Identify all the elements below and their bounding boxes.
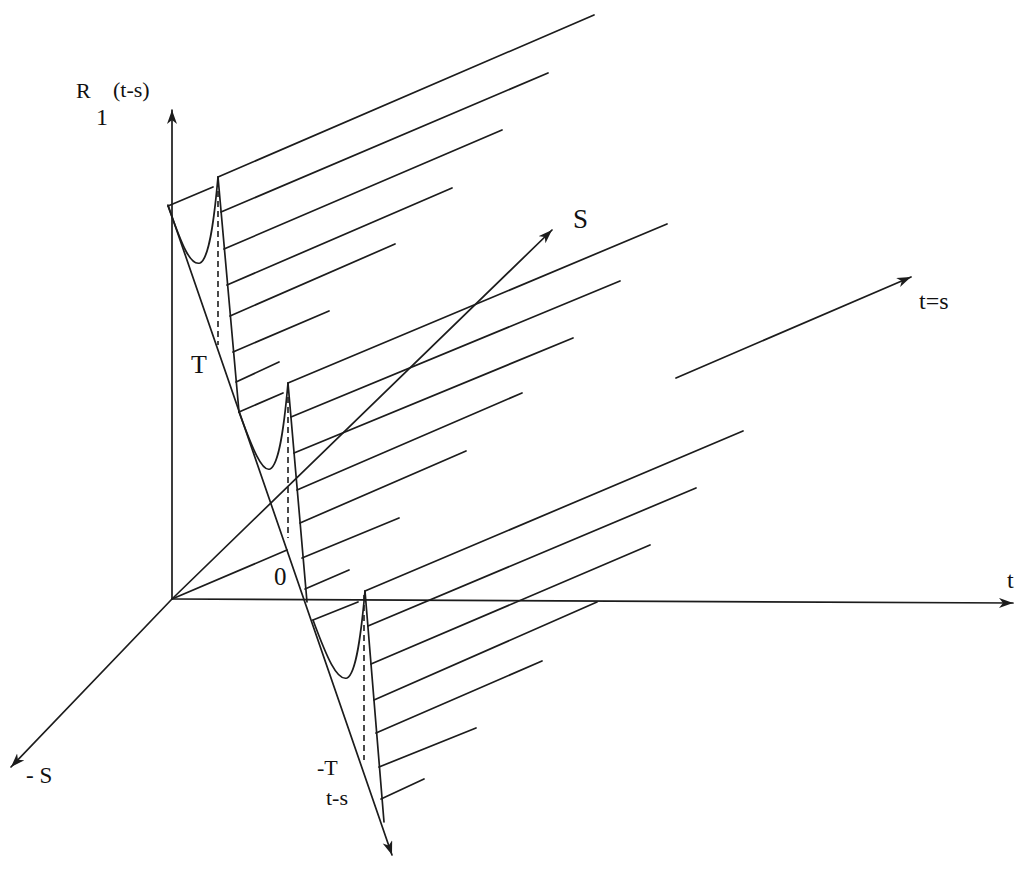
hatch-line bbox=[233, 311, 329, 352]
period-1 bbox=[168, 15, 594, 412]
hatch-line bbox=[239, 393, 283, 412]
hatch-line bbox=[302, 518, 399, 558]
s-axis bbox=[172, 230, 552, 599]
labels: R 1 (t-s) S t=s t - S t-s T 0 -T bbox=[26, 77, 1014, 810]
neg-s-axis-label: - S bbox=[26, 763, 52, 788]
covariance-curve bbox=[313, 591, 365, 678]
hatch-line bbox=[313, 602, 358, 620]
lag-t-minus-s-axis bbox=[168, 205, 392, 855]
diagonal-t-equals-s-far bbox=[676, 277, 911, 378]
curve-right-edge bbox=[288, 383, 307, 602]
t-axis-label: t bbox=[1007, 567, 1014, 593]
hatch-line bbox=[379, 728, 476, 767]
hatch-line bbox=[368, 488, 696, 626]
hatch-line bbox=[381, 779, 424, 799]
hatch-line bbox=[305, 570, 349, 589]
hatch-line bbox=[376, 661, 542, 733]
hatch-line bbox=[291, 281, 620, 417]
r-axis-label-subscript: 1 bbox=[96, 104, 108, 130]
r-axis-label-main: R bbox=[76, 78, 91, 103]
lag-axis-label: t-s bbox=[326, 785, 348, 810]
hatch-line bbox=[224, 130, 502, 249]
axes bbox=[11, 110, 1013, 855]
covariance-surface-diagram: R 1 (t-s) S t=s t - S t-s T 0 -T bbox=[0, 0, 1031, 875]
hatch-line bbox=[365, 431, 743, 591]
tick-label-zero: 0 bbox=[274, 563, 287, 590]
hatch-line bbox=[230, 244, 395, 316]
hatch-line bbox=[288, 224, 667, 383]
hatch-line bbox=[218, 15, 594, 177]
hatch-line bbox=[168, 187, 213, 206]
hatch-line bbox=[294, 338, 573, 453]
tick-label-plus-period: T bbox=[191, 350, 207, 379]
s-axis-label: S bbox=[573, 204, 588, 234]
diagonal-axis-label: t=s bbox=[919, 288, 949, 314]
diagonal-t-equals-s-near bbox=[172, 550, 287, 599]
t-axis bbox=[172, 599, 1013, 603]
hatch-line bbox=[371, 545, 650, 664]
hatch-line bbox=[236, 362, 279, 382]
hatch-line bbox=[227, 188, 452, 285]
neg-s-axis bbox=[11, 599, 172, 767]
period-2 bbox=[239, 224, 667, 602]
covariance-curve bbox=[168, 177, 218, 263]
r-axis-label-argument: (t-s) bbox=[113, 77, 150, 102]
hatch-line bbox=[300, 451, 466, 523]
covariance-curve bbox=[239, 383, 288, 469]
hatch-line bbox=[221, 73, 548, 212]
tick-label-minus-period: -T bbox=[317, 755, 338, 780]
